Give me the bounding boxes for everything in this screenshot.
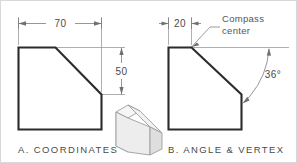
note-compass-center-line1: Compass [222,13,264,24]
dimension-value-70: 70 [55,18,67,29]
dimension-value-36: 36° [265,69,281,80]
dim-arrow-20-left-icon [162,21,169,25]
dim-arrow-36-top-icon [267,48,271,56]
note-compass-center-line2: center [222,25,250,36]
profile-outline-a [19,48,102,130]
dim-arrow-70-left-icon [19,21,27,25]
dim-arrow-50-bottom-icon [119,87,123,95]
panel-b-group: 20 Compass center 36° [159,13,289,130]
caption-panel-a: A. COORDINATES [18,144,118,155]
isometric-wedge [116,105,162,155]
dim-arrow-20-right-icon [192,21,199,25]
panel-a-group: 70 50 [19,17,128,130]
dimension-value-50: 50 [116,66,128,77]
dim-arrow-50-top-icon [119,48,123,56]
drawing-canvas: 70 50 [1,1,297,163]
dimension-value-20: 20 [174,18,186,29]
dim-arrow-70-right-icon [94,21,102,25]
caption-panel-b: B. ANGLE & VERTEX [168,144,285,155]
profile-outline-b [169,48,242,130]
technical-drawing-figure: 70 50 [0,0,297,163]
